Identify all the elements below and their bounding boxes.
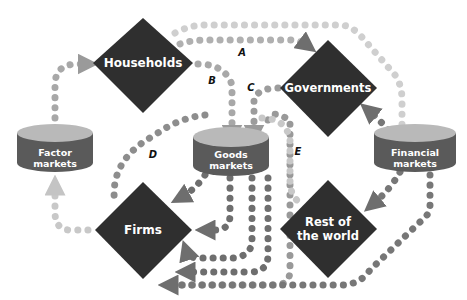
- flow-financial-to-rest-of-world: [372, 172, 400, 205]
- financial-label-1: Financial: [391, 147, 439, 158]
- flow-label-e: E: [295, 146, 302, 157]
- flow-goods-to-firms-1: [180, 175, 205, 198]
- flow-goods-to-firms-3: [186, 178, 252, 258]
- flow-label-a: A: [237, 47, 246, 58]
- circular-flow-diagram: Households Governments Firms Rest of the…: [0, 0, 467, 300]
- flow-firms-to-factor: [55, 185, 88, 230]
- market-financial: Financial markets: [374, 124, 456, 172]
- financial-label-2: markets: [393, 158, 437, 169]
- flow-goods-to-firms-2: [205, 178, 230, 230]
- governments-label: Governments: [285, 81, 372, 95]
- node-governments: Governments: [280, 40, 377, 137]
- node-rest-of-world: Rest of the world: [280, 180, 377, 278]
- flow-factor-to-households: [55, 64, 88, 128]
- flow-label-d: D: [149, 149, 157, 160]
- firms-label: Firms: [124, 223, 162, 237]
- goods-label-1: Goods: [214, 149, 248, 160]
- factor-label-2: markets: [33, 158, 77, 169]
- node-firms: Firms: [95, 182, 192, 279]
- flow-label-c: C: [247, 82, 255, 93]
- households-label: Households: [104, 56, 183, 70]
- market-goods: Goods markets: [193, 127, 269, 176]
- rest-of-world-label-2: the world: [297, 229, 359, 243]
- rest-of-world-label-1: Rest of: [305, 215, 352, 229]
- flow-A: [180, 40, 308, 46]
- goods-label-2: markets: [209, 160, 253, 171]
- factor-label-1: Factor: [38, 147, 72, 158]
- flow-label-b: B: [208, 75, 216, 86]
- market-factor: Factor markets: [17, 124, 93, 172]
